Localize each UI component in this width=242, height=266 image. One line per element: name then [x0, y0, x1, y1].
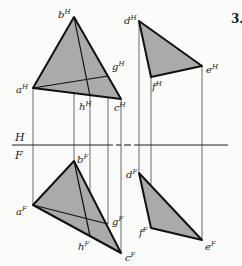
descriptive-geometry-diagram: bH aH gH hH cH dH eH fH H F bF aF gF hF …	[0, 0, 242, 266]
label-g-h: gH	[112, 60, 125, 72]
plane-label-h: H	[14, 131, 25, 144]
label-f-f: fF	[138, 226, 149, 238]
label-c-f: cF	[125, 251, 137, 263]
label-f-h: fH	[151, 80, 163, 92]
label-h-h: hH	[79, 100, 92, 112]
label-a-f: aF	[16, 205, 28, 217]
label-c-h: cH	[114, 101, 127, 113]
triangle-abc-top-view	[33, 17, 121, 99]
triangle-def-front-view	[139, 173, 202, 240]
label-e-h: eH	[206, 63, 219, 75]
label-a-h: aH	[16, 83, 29, 95]
label-h-f: hF	[78, 240, 90, 252]
label-g-f: gF	[112, 215, 124, 227]
label-d-f: dF	[126, 168, 138, 180]
triangle-def-top-view	[139, 21, 202, 77]
label-d-h: dH	[124, 14, 137, 26]
label-e-f: eF	[205, 240, 217, 252]
label-b-h: bH	[58, 8, 71, 20]
plane-label-f: F	[14, 149, 23, 162]
problem-number: 3.	[231, 12, 242, 26]
label-b-f: bF	[77, 153, 89, 165]
